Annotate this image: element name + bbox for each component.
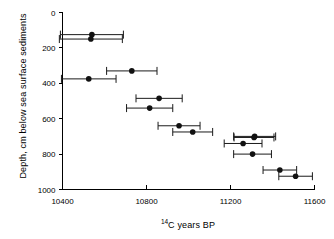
x-tick-label: 11200 [220,197,242,206]
data-point [190,129,196,135]
data-point [251,135,257,141]
scatter-plot-canvas: 0200400600800100010400108001120011600 [0,0,334,239]
data-point [293,173,299,179]
data-point [86,76,92,82]
error-bars-group [59,31,312,181]
y-tick-label: 400 [42,79,56,88]
y-tick-label: 800 [42,150,56,159]
y-tick-label: 200 [42,44,56,53]
data-point [88,36,94,42]
y-tick-label: 1000 [38,186,56,195]
y-tick-label: 600 [42,115,56,124]
data-point [176,123,182,129]
y-tick-label: 0 [51,9,56,18]
data-point [147,105,153,111]
x-tick-label: 11600 [304,197,326,206]
data-point [250,151,256,157]
data-points-group [86,32,298,179]
x-tick-label: 10800 [135,197,158,206]
data-point [129,68,135,74]
x-tick-label: 10400 [51,197,74,206]
data-point [240,141,246,147]
data-point [156,96,162,102]
chart-figure: Depth, cm below sea surface sediments 14… [0,0,334,239]
data-point [277,167,283,173]
